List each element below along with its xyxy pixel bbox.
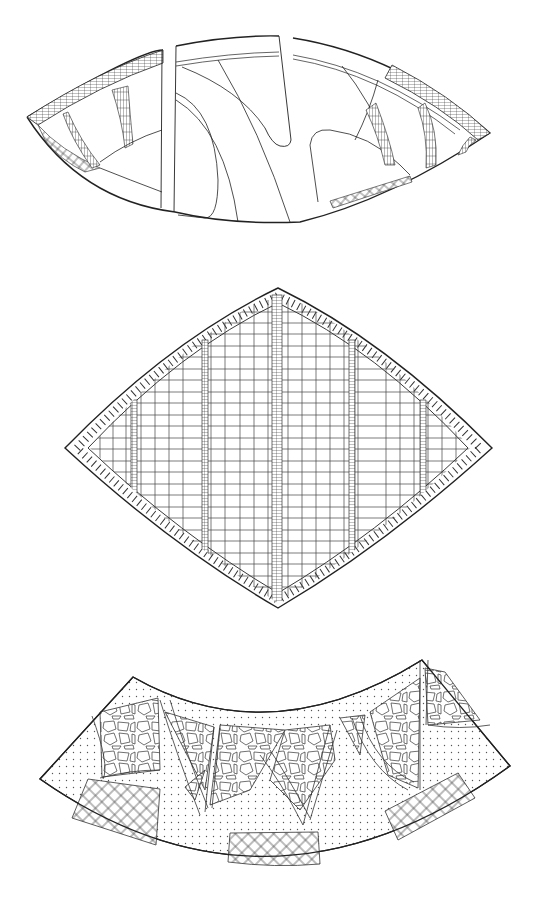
arc-pattern	[40, 660, 510, 866]
left-strip-2	[112, 86, 133, 148]
gap-walkway-left	[161, 46, 176, 212]
serpentine-path-4	[176, 100, 238, 222]
grid-strip-left-2	[202, 340, 208, 565]
right-strip-3	[458, 137, 476, 155]
serpentine-path-1	[182, 67, 265, 128]
right-checker-row	[330, 176, 412, 208]
lens-pattern	[27, 36, 490, 223]
right-strip-1	[366, 103, 395, 165]
serpentine-path-3	[176, 93, 218, 218]
crazy-triangle-1	[100, 698, 160, 777]
grid-strip-right-2	[349, 340, 355, 565]
grid-strip-left-1	[131, 400, 137, 500]
drawing-canvas	[0, 0, 546, 904]
lens-outline	[27, 36, 490, 223]
grid-strip-right-1	[420, 400, 426, 500]
diamond-pattern	[60, 288, 500, 608]
grid-strip-center	[272, 295, 282, 605]
serpentine-path-2	[218, 60, 290, 222]
right-island	[310, 130, 410, 202]
lattice-panel-center	[228, 832, 320, 866]
right-brick-band	[385, 65, 490, 140]
left-brick-band	[27, 50, 163, 125]
left-lower-arc	[100, 168, 162, 192]
right-strip-2	[418, 103, 436, 168]
